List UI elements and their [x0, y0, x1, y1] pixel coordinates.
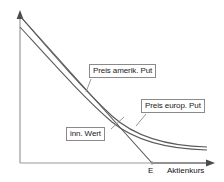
callout-intrinsic-value: inn. Wert — [66, 127, 105, 141]
leader-line-european-put — [136, 114, 146, 126]
figure-page: Preis amerik. Put Preis europ. Put inn. … — [0, 0, 224, 182]
x-axis-label: Aktienkurs — [167, 166, 204, 176]
x-axis-arrowhead — [206, 160, 215, 167]
callout-american-put: Preis amerik. Put — [89, 64, 156, 78]
curve-intrinsic-value — [20, 16, 207, 163]
y-axis-arrowhead — [17, 10, 24, 19]
callout-european-put: Preis europ. Put — [141, 99, 205, 113]
leader-line-american-put — [86, 79, 91, 92]
curve-european-put — [20, 27, 207, 150]
put-option-value-diagram — [0, 0, 224, 182]
curve-american-put — [20, 16, 207, 147]
strike-price-label: E — [148, 166, 153, 176]
